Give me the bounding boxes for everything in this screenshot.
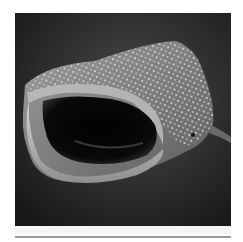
horizontal-rule [15, 236, 231, 238]
caption-strip [15, 226, 231, 234]
whale-shark-illustration [15, 13, 231, 226]
whale-shark-photo [15, 13, 231, 226]
eye [191, 133, 195, 137]
